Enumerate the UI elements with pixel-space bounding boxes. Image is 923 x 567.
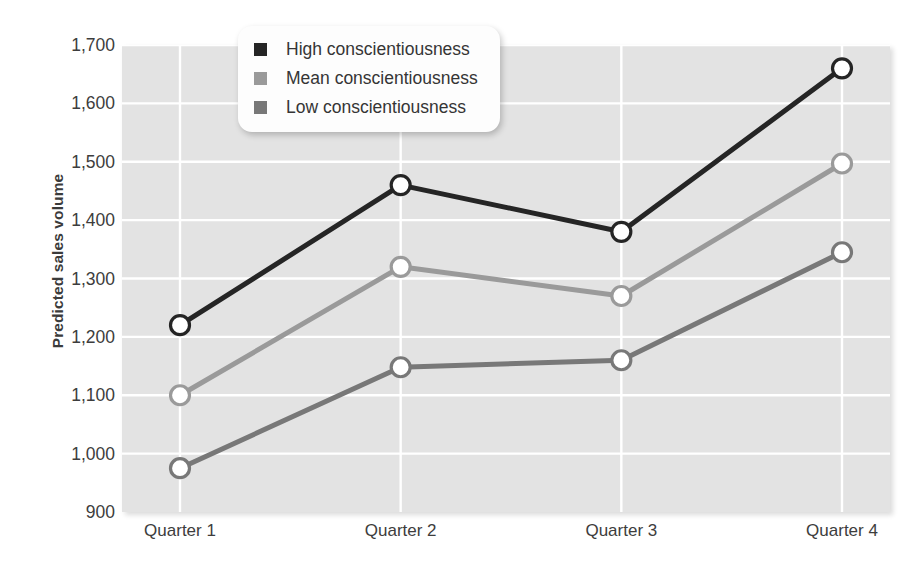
- data-point-marker: [612, 222, 631, 241]
- data-point-marker: [391, 257, 410, 276]
- y-tick-label: 1,600: [0, 93, 115, 114]
- data-point-marker: [833, 59, 852, 78]
- chart-legend: High conscientiousness Mean conscientiou…: [238, 26, 500, 132]
- legend-item-low: Low conscientiousness: [254, 93, 478, 122]
- x-tick-label: Quarter 4: [806, 521, 878, 541]
- y-tick-label: 1,700: [0, 35, 115, 56]
- legend-item-mean: Mean conscientiousness: [254, 64, 478, 93]
- legend-swatch-low-icon: [254, 101, 267, 114]
- data-point-marker: [612, 351, 631, 370]
- legend-swatch-mean-icon: [254, 72, 267, 85]
- x-tick-label: Quarter 2: [365, 521, 437, 541]
- data-point-marker: [391, 176, 410, 195]
- y-tick-label: 1,200: [0, 326, 115, 347]
- legend-label-high: High conscientiousness: [286, 39, 470, 60]
- legend-label-low: Low conscientiousness: [286, 97, 466, 118]
- line-chart: Predicted sales volume 1,7001,6001,5001,…: [0, 0, 923, 567]
- y-tick-label: 1,300: [0, 268, 115, 289]
- y-tick-label: 900: [0, 502, 115, 523]
- legend-label-mean: Mean conscientiousness: [286, 68, 478, 89]
- x-tick-label: Quarter 3: [585, 521, 657, 541]
- data-point-marker: [833, 243, 852, 262]
- y-tick-label: 1,100: [0, 385, 115, 406]
- data-point-marker: [391, 358, 410, 377]
- y-axis-tick-labels: 1,7001,6001,5001,4001,3001,2001,1001,000…: [0, 0, 115, 567]
- y-tick-label: 1,400: [0, 210, 115, 231]
- legend-swatch-high-icon: [254, 43, 267, 56]
- y-tick-label: 1,000: [0, 443, 115, 464]
- data-point-marker: [171, 459, 190, 478]
- series-line-2: [180, 252, 842, 468]
- x-tick-label: Quarter 1: [144, 521, 216, 541]
- x-axis-tick-labels: Quarter 1Quarter 2Quarter 3Quarter 4: [0, 521, 923, 561]
- data-point-marker: [833, 154, 852, 173]
- data-point-marker: [171, 316, 190, 335]
- data-point-marker: [171, 386, 190, 405]
- y-tick-label: 1,500: [0, 151, 115, 172]
- legend-item-high: High conscientiousness: [254, 35, 478, 64]
- data-point-marker: [612, 287, 631, 306]
